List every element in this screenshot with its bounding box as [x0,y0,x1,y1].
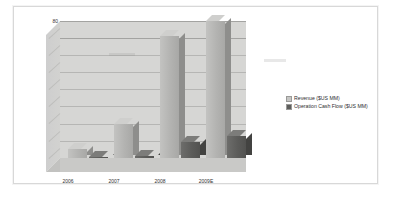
legend-item-cashflow: Operation Cash Flow ($US MM) [286,104,386,110]
bar-face [114,124,133,158]
legend-swatch-icon [286,104,292,110]
bars-layer [60,21,246,158]
bar-face [89,157,108,158]
bar-face [181,142,200,158]
bar-side [179,33,185,155]
x-tick-label: 2007 [94,179,134,184]
legend-item-revenue: Revenue ($US MM) [286,96,386,102]
x-tick-label: 2008 [140,179,180,184]
chart-figure: 80 70 60 50 40 30 20 10 0 [0,0,393,201]
bar-face [68,149,87,158]
bar-revenue-2007 [114,124,133,158]
bar-face [135,156,154,158]
plot-floor [60,158,246,172]
bar-face [206,21,225,158]
bar-cashflow-2009e [227,136,246,158]
bar-revenue-2008 [160,36,179,158]
bar-cashflow-2007 [135,156,154,158]
chart-frame: 80 70 60 50 40 30 20 10 0 [13,6,378,184]
scan-speck [109,53,135,56]
x-axis: 2006 2007 2008 2009E [48,179,258,189]
bar-side [133,121,139,155]
scan-speck [264,59,286,62]
bar-face [160,36,179,158]
bar-face [227,136,246,158]
legend-swatch-icon [286,96,292,102]
bar-cashflow-2006 [89,157,108,158]
legend-label: Operation Cash Flow ($US MM) [294,104,368,110]
bar-side [87,146,93,155]
x-tick-label: 2006 [48,179,88,184]
bar-revenue-2006 [68,149,87,158]
x-tick-label: 2009E [186,179,226,184]
y-tick-label: 80 [52,19,58,24]
bar-side [246,133,252,155]
chart-legend: Revenue ($US MM) Operation Cash Flow ($U… [286,96,386,112]
plot-area [60,21,246,172]
bar-cashflow-2008 [181,142,200,158]
legend-label: Revenue ($US MM) [294,96,340,102]
bar-revenue-2009e [206,21,225,158]
